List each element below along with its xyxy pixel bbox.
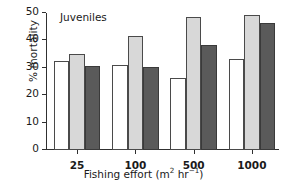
bar <box>143 67 159 150</box>
y-axis-tick: 30 <box>42 67 46 68</box>
x-axis-title-tail: ) <box>199 168 203 180</box>
y-axis-tick: 20 <box>42 94 46 95</box>
x-axis-tick: 100 <box>135 150 136 154</box>
x-axis-title-sup-time: −1 <box>189 166 200 175</box>
bar <box>229 59 245 150</box>
bar <box>54 61 70 150</box>
plot-area: Juveniles 01020304050 251005001000 <box>46 13 279 150</box>
y-axis-tick: 10 <box>42 122 46 123</box>
bar <box>85 66 101 150</box>
x-axis-title-mid: hr <box>174 168 188 180</box>
y-axis-tick: 0 <box>42 149 46 150</box>
y-axis-tick-label: 10 <box>26 115 39 127</box>
y-axis-tick-label: 30 <box>26 60 39 72</box>
bar <box>186 17 202 150</box>
y-axis-tick-label: 50 <box>26 5 39 17</box>
bar <box>170 78 186 150</box>
x-axis-tick: 1000 <box>252 150 253 154</box>
x-axis-title: Fishing effort (m2 hr−1) <box>0 166 287 180</box>
y-axis-tick-label: 0 <box>32 142 39 154</box>
bar-chart-figure: % mortality Juveniles 01020304050 251005… <box>0 0 287 187</box>
y-axis-tick-label: 20 <box>26 87 39 99</box>
y-axis-tick-label: 40 <box>26 32 39 44</box>
panel-title: Juveniles <box>60 11 107 23</box>
bar <box>244 15 260 150</box>
y-axis-tick: 50 <box>42 12 46 13</box>
x-axis-tick: 25 <box>77 150 78 154</box>
bar <box>128 36 144 150</box>
x-axis-tick: 500 <box>194 150 195 154</box>
bar <box>201 45 217 150</box>
bar <box>112 65 128 150</box>
bar <box>260 23 276 150</box>
x-axis-title-base: Fishing effort (m <box>84 168 170 180</box>
y-axis-tick: 40 <box>42 39 46 40</box>
bar <box>69 54 85 150</box>
y-axis-spine <box>46 13 47 150</box>
